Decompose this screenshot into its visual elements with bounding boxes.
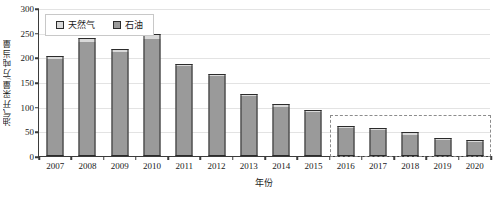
- x-tick-label: 2014: [272, 162, 290, 171]
- x-tick-mark: [393, 156, 395, 160]
- x-tick-label: 2018: [401, 162, 419, 171]
- x-tick-mark: [103, 156, 105, 160]
- bar-segment-oil: [47, 59, 64, 156]
- x-tick-mark: [264, 156, 266, 160]
- x-tick-label: 2019: [434, 162, 452, 171]
- y-axis-title: 油气开采量/万吨当量: [1, 9, 15, 157]
- y-axis-title-text: 油气开采量/万吨当量: [2, 39, 14, 126]
- bar-chart: 油气开采量/万吨当量 050100150200250300 2007200820…: [0, 0, 497, 197]
- x-tick-mark: [135, 156, 137, 160]
- y-tick-mark: [35, 58, 39, 60]
- bar-group: [111, 49, 128, 156]
- x-tick-label: 2015: [304, 162, 322, 171]
- chart-legend: 天然气石油: [45, 14, 154, 36]
- bar-segment-oil: [337, 128, 354, 156]
- bar-segment-oil: [305, 112, 322, 156]
- x-tick-label: 2009: [111, 162, 129, 171]
- y-tick-mark: [35, 132, 39, 134]
- bar-group: [434, 138, 451, 156]
- bar-group: [240, 94, 257, 156]
- bar-group: [370, 128, 387, 156]
- x-tick-label: 2013: [240, 162, 258, 171]
- bar-group: [176, 64, 193, 156]
- x-tick-label: 2020: [466, 162, 484, 171]
- x-tick-label: 2011: [175, 162, 193, 171]
- gridline: [39, 9, 490, 10]
- x-tick-label: 2017: [369, 162, 387, 171]
- bar-segment-oil: [402, 135, 419, 156]
- x-tick-mark: [426, 156, 428, 160]
- y-tick-label: 200: [21, 54, 35, 63]
- bar-group: [144, 34, 161, 156]
- bar-segment-oil: [111, 52, 128, 156]
- bar-segment-oil: [176, 66, 193, 156]
- y-tick-label: 150: [21, 79, 35, 88]
- x-tick-mark: [458, 156, 460, 160]
- y-tick-mark: [35, 33, 39, 35]
- bar-segment-oil: [370, 130, 387, 156]
- y-tick-mark: [35, 8, 39, 10]
- x-tick-mark: [38, 156, 40, 160]
- gridline: [39, 58, 490, 59]
- y-tick-label: 100: [21, 103, 35, 112]
- bar-segment-oil: [208, 76, 225, 156]
- legend-label: 天然气: [68, 21, 95, 30]
- bar-group: [273, 104, 290, 156]
- legend-label: 石油: [125, 21, 143, 30]
- bar-group: [402, 132, 419, 156]
- x-tick-mark: [71, 156, 73, 160]
- y-tick-mark: [35, 82, 39, 84]
- y-tick-mark: [35, 107, 39, 109]
- bar-segment-oil: [240, 96, 257, 156]
- bar-group: [466, 140, 483, 156]
- bar-group: [47, 56, 64, 156]
- bar-segment-oil: [466, 142, 483, 156]
- bar-segment-oil: [144, 39, 161, 156]
- x-axis-title: 年份: [38, 176, 490, 189]
- x-tick-label: 2007: [46, 162, 64, 171]
- bar-group: [208, 74, 225, 156]
- gridline: [39, 83, 490, 84]
- x-tick-mark: [297, 156, 299, 160]
- x-tick-mark: [361, 156, 363, 160]
- bar-group: [79, 38, 96, 156]
- bar-segment-oil: [434, 140, 451, 156]
- gridline: [39, 132, 490, 133]
- x-tick-mark: [200, 156, 202, 160]
- x-tick-mark: [490, 156, 492, 160]
- y-tick-label: 0: [30, 153, 35, 162]
- x-tick-mark: [167, 156, 169, 160]
- x-tick-mark: [329, 156, 331, 160]
- x-tick-mark: [232, 156, 234, 160]
- legend-item: 石油: [113, 21, 143, 30]
- bar-group: [337, 126, 354, 156]
- bar-group: [305, 110, 322, 156]
- legend-item: 天然气: [56, 21, 95, 30]
- x-tick-label: 2008: [78, 162, 96, 171]
- x-tick-label: 2016: [337, 162, 355, 171]
- x-tick-label: 2012: [208, 162, 226, 171]
- legend-swatch-icon: [113, 21, 121, 29]
- gridline: [39, 108, 490, 109]
- y-tick-label: 250: [21, 29, 35, 38]
- x-tick-label: 2010: [143, 162, 161, 171]
- y-tick-label: 50: [25, 128, 34, 137]
- bar-segment-oil: [79, 42, 96, 156]
- y-tick-label: 300: [21, 5, 35, 14]
- legend-swatch-icon: [56, 21, 64, 29]
- bar-segment-oil: [273, 107, 290, 156]
